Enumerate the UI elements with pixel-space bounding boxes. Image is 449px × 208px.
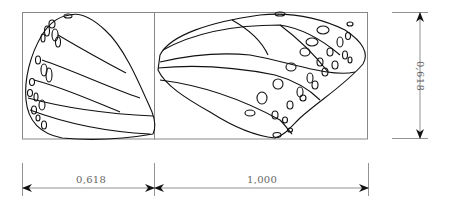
diagram-canvas <box>0 0 449 208</box>
frame-rectangles <box>23 13 368 140</box>
label-height-0618: 0,618 <box>415 61 426 91</box>
rectangle-frame <box>155 13 368 140</box>
bottom-dimension <box>23 163 369 196</box>
label-width-0618: 0,618 <box>76 174 106 185</box>
label-width-1000: 1,000 <box>247 174 277 185</box>
fore-wing <box>158 12 365 138</box>
hind-wing <box>26 14 155 139</box>
